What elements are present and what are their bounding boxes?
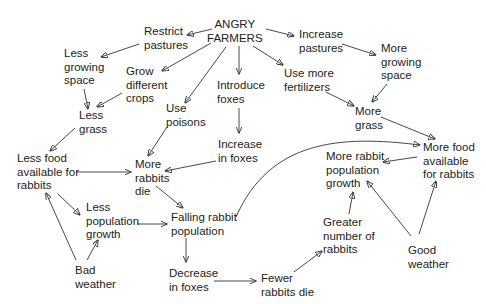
node-greater-number-of-rabbits: Greater number of rabbits bbox=[323, 216, 375, 257]
node-less-food-available: Less food available for rabbits bbox=[17, 152, 79, 193]
node-angry-farmers: ANGRY FARMERS bbox=[207, 18, 263, 45]
node-more-rabbit-population-growth: More rabbit population growth bbox=[326, 150, 384, 191]
arrow-lessgrass-lessfood bbox=[50, 128, 75, 151]
arrow-grow-lessgrass bbox=[97, 93, 122, 107]
node-more-rabbits-die: More rabbits die bbox=[135, 158, 170, 199]
arrow-lessspace-lessgrass bbox=[84, 89, 88, 109]
node-use-poisons: Use poisons bbox=[166, 102, 206, 129]
node-more-grass: More grass bbox=[355, 105, 383, 132]
node-grow-different-crops: Grow different crops bbox=[126, 65, 167, 106]
arrow-farmers-fertilizers bbox=[253, 46, 283, 65]
node-fewer-rabbits-die: Fewer rabbits die bbox=[261, 272, 314, 299]
arrow-moregrowing-moregrass bbox=[372, 84, 387, 102]
node-introduce-foxes: Introduce foxes bbox=[217, 79, 265, 106]
node-bad-weather: Bad weather bbox=[75, 264, 116, 291]
arrow-lessfood-lesspop bbox=[58, 194, 80, 215]
node-falling-rabbit-population: Falling rabbit population bbox=[171, 211, 237, 238]
arrow-fertilizers-moregrass bbox=[326, 92, 354, 106]
arrow-badweather-lesspop bbox=[87, 240, 98, 260]
node-restrict-pastures: Restrict pastures bbox=[144, 25, 188, 52]
node-more-food-available: More food available for rabbits bbox=[423, 141, 475, 182]
node-increase-in-foxes: Increase in foxes bbox=[218, 138, 262, 165]
arrow-badweather-lessfood bbox=[46, 193, 76, 260]
arrow-fewer-greater bbox=[294, 251, 322, 272]
arrow-poisons-morerabbitsdie bbox=[148, 127, 167, 156]
node-less-population-growth: Less population growth bbox=[86, 201, 139, 242]
arrow-moregrass-morefood bbox=[381, 117, 435, 139]
arrow-morefood-moregrowth bbox=[383, 157, 417, 162]
node-increase-pastures: Increase pastures bbox=[299, 28, 343, 55]
node-decrease-in-foxes: Decrease in foxes bbox=[169, 267, 218, 294]
arrow-increasefoxes-morerabbitsdie bbox=[165, 161, 216, 171]
node-more-growing-space: More growing space bbox=[381, 42, 421, 83]
node-less-growing-space: Less growing space bbox=[64, 47, 104, 88]
arrow-restrict-lessspace bbox=[101, 44, 139, 57]
arrow-greater-moregrowth bbox=[349, 192, 353, 214]
arrow-goodweather-morefood bbox=[419, 181, 436, 234]
node-good-weather: Good weather bbox=[408, 244, 449, 271]
arrow-farmers-increase bbox=[266, 29, 294, 36]
concept-map: ANGRY FARMERS Restrict pastures Increase… bbox=[0, 0, 486, 304]
node-use-more-fertilizers: Use more fertilizers bbox=[284, 67, 334, 94]
node-less-grass: Less grass bbox=[79, 109, 107, 136]
arrow-increase-moregrowing bbox=[342, 44, 376, 55]
